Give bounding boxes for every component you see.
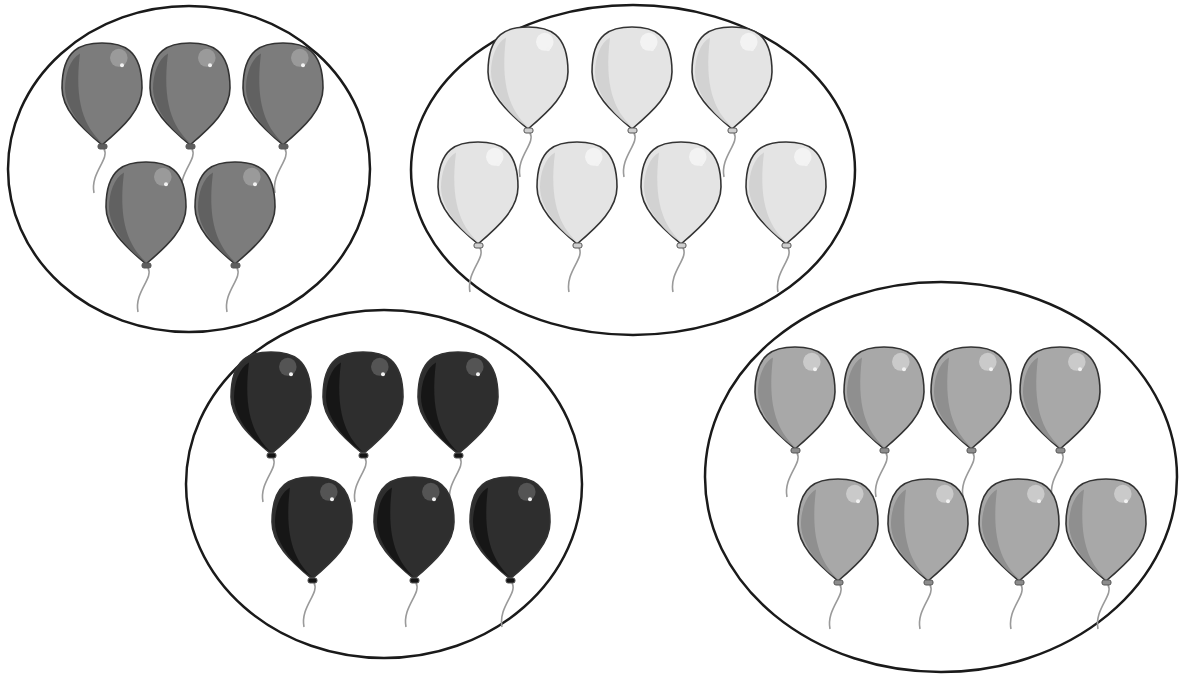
balloon-icon [931,347,1011,497]
balloon-string [354,458,366,502]
balloon-string [919,585,931,629]
balloon-string [568,248,580,292]
balloon-icon [746,142,826,292]
balloon-string [623,133,635,177]
balloon-icon [106,162,186,312]
group-black [186,310,582,658]
balloon-string [1010,585,1022,629]
balloon-string [723,133,735,177]
balloon-icon [272,477,352,627]
balloon-string [93,149,105,193]
balloon-string [786,453,798,497]
balloon-string [226,268,238,312]
balloon-icon [798,479,878,629]
balloon-string [303,583,315,627]
balloon-string [672,248,684,292]
balloon-string [262,458,274,502]
balloon-string [137,268,149,312]
balloon-string [519,133,531,177]
balloon-icon [641,142,721,292]
balloon-string [875,453,887,497]
group-dark-gray [8,6,370,332]
balloon-icon [537,142,617,292]
balloon-icon [470,477,550,627]
group-ellipse [705,282,1177,672]
balloon-icon [979,479,1059,629]
balloon-string [274,149,286,193]
balloon-icon [438,142,518,292]
balloon-icon [888,479,968,629]
balloon-string [449,458,461,502]
balloon-string [829,585,841,629]
balloon-string [777,248,789,292]
balloon-icon [374,477,454,627]
group-light-gray [411,5,855,335]
balloon-icon [844,347,924,497]
balloon-icon [1066,479,1146,629]
balloon-icon [755,347,835,497]
balloon-icon [1020,347,1100,497]
balloon-string [1051,453,1063,497]
balloon-string [405,583,417,627]
balloon-icon [323,352,403,502]
balloon-icon [195,162,275,312]
balloon-sets-canvas [0,0,1190,689]
group-medium-gray [705,282,1177,672]
balloon-string [962,453,974,497]
